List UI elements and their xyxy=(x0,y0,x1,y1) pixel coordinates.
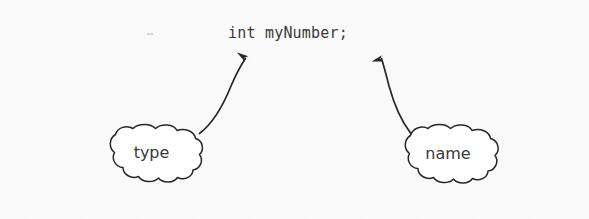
code-line: int myNumber; xyxy=(228,24,348,42)
diagram-canvas: int myNumber; type name xyxy=(0,0,589,219)
scan-artifact-speck xyxy=(147,33,153,35)
arrow-type-to-int xyxy=(200,59,246,134)
arrow-name-to-identifier xyxy=(382,59,411,134)
callout-label-type: type xyxy=(103,143,200,162)
callout-label-name: name xyxy=(398,144,498,163)
